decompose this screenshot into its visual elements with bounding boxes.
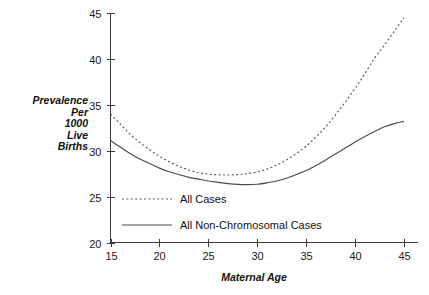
y-axis-title-line-4: Births xyxy=(58,140,88,152)
x-tick-label-30: 30 xyxy=(251,250,263,262)
y-axis-title-line-3: Live xyxy=(67,129,88,141)
x-tick-label-20: 20 xyxy=(153,250,165,262)
y-axis-title-line-0: Prevalence xyxy=(33,94,89,106)
x-tick-label-45: 45 xyxy=(398,250,410,262)
series-line-all-cases xyxy=(111,18,405,175)
x-tick-label-15: 15 xyxy=(105,250,117,262)
y-tick-label-45: 45 xyxy=(89,8,101,20)
legend-label-1: All Non-Chromosomal Cases xyxy=(180,219,322,231)
series-lines xyxy=(111,18,405,185)
x-axis-title: Maternal Age xyxy=(221,271,287,283)
chart-legend: All CasesAll Non-Chromosomal Cases xyxy=(122,193,322,231)
legend-label-0: All Cases xyxy=(180,193,227,205)
prevalence-by-maternal-age-chart: 202530354045 15202530354045 PrevalencePe… xyxy=(0,0,429,295)
x-tick-label-35: 35 xyxy=(300,250,312,262)
x-axis-tick-labels: 15202530354045 xyxy=(105,250,410,262)
x-tick-label-25: 25 xyxy=(202,250,214,262)
y-axis-title-line-1: Per xyxy=(71,106,89,118)
y-tick-label-25: 25 xyxy=(89,192,101,204)
y-tick-label-40: 40 xyxy=(89,54,101,66)
y-axis-title: PrevalencePer1000LiveBirths xyxy=(33,94,89,152)
y-tick-label-20: 20 xyxy=(89,238,101,250)
y-axis-tick-labels: 202530354045 xyxy=(89,8,101,250)
y-tick-label-35: 35 xyxy=(89,100,101,112)
y-axis-title-line-2: 1000 xyxy=(65,117,89,129)
y-tick-label-30: 30 xyxy=(89,146,101,158)
x-tick-label-40: 40 xyxy=(349,250,361,262)
chart-figure: 202530354045 15202530354045 PrevalencePe… xyxy=(0,0,429,295)
